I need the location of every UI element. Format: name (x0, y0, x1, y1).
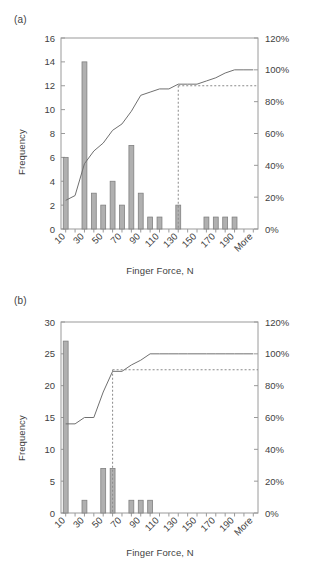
x-tick-label: 50 (89, 515, 104, 530)
y-tick-label: 10 (44, 444, 55, 455)
x-tick-label: 70 (108, 231, 123, 246)
y2-tick-label: 0% (265, 224, 279, 235)
bar (157, 217, 162, 229)
bar (120, 205, 125, 229)
y2-tick-label: 100% (265, 348, 290, 359)
x-tick-label: 130 (161, 515, 180, 534)
plot-frame (61, 38, 258, 229)
bar (82, 500, 87, 513)
bar (110, 181, 115, 229)
y-tick-label: 10 (44, 104, 55, 115)
y-tick-label: 25 (44, 348, 55, 359)
y2-tick-label: 120% (265, 33, 290, 44)
bar (63, 157, 68, 229)
y-tick-label: 14 (44, 56, 55, 67)
y-tick-label: 0 (50, 508, 55, 519)
y2-tick-label: 40% (265, 160, 285, 171)
bar (213, 217, 218, 229)
bar (129, 500, 134, 513)
y2-tick-label: 20% (265, 476, 285, 487)
x-tick-label: 70 (108, 515, 123, 530)
bar (176, 205, 181, 229)
bar (138, 500, 143, 513)
x-tick-label: 150 (179, 231, 198, 250)
bar (129, 145, 134, 229)
y2-tick-label: 100% (265, 64, 290, 75)
bar (91, 193, 96, 229)
x-tick-label: 170 (198, 231, 217, 250)
y-tick-label: 16 (44, 33, 55, 44)
y2-tick-label: 80% (265, 380, 285, 391)
bar (148, 217, 153, 229)
y-tick-label: 4 (50, 176, 55, 187)
y-tick-label: 2 (50, 200, 55, 211)
x-tick-label: More (232, 515, 255, 538)
x-tick-label: More (232, 231, 255, 254)
y-tick-label: 20 (44, 380, 55, 391)
x-tick-label: 150 (179, 515, 198, 534)
x-tick-label: 50 (89, 231, 104, 246)
y-tick-label: 15 (44, 412, 55, 423)
x-tick-label: 30 (71, 515, 86, 530)
y-tick-label: 0 (50, 224, 55, 235)
y-tick-label: 30 (44, 317, 55, 328)
y2-tick-label: 20% (265, 192, 285, 203)
x-tick-label: 30 (71, 231, 86, 246)
bar (223, 217, 228, 229)
bar (148, 500, 153, 513)
x-tick-label: 110 (142, 231, 160, 249)
panel-b: (b) Frequency Finger Force, N 0510152025… (0, 283, 327, 567)
y2-tick-label: 0% (265, 508, 279, 519)
y2-tick-label: 80% (265, 96, 285, 107)
y-tick-label: 5 (50, 476, 55, 487)
panel-b-plot: 0510152025300%20%40%60%80%100%120%103050… (0, 283, 327, 567)
bar (138, 193, 143, 229)
x-tick-label: 170 (198, 515, 217, 534)
x-tick-label: 90 (127, 515, 142, 530)
y2-tick-label: 60% (265, 128, 285, 139)
y-tick-label: 6 (50, 152, 55, 163)
x-tick-label: 130 (161, 231, 180, 250)
bar (63, 341, 68, 513)
y2-tick-label: 40% (265, 444, 285, 455)
bar (101, 205, 106, 229)
bar (82, 62, 87, 229)
panel-a-plot: 02468101214160%20%40%60%80%100%120%10305… (0, 0, 327, 283)
x-tick-label: 110 (142, 515, 160, 533)
y-tick-label: 12 (44, 80, 55, 91)
bar (232, 217, 237, 229)
y-tick-label: 8 (50, 128, 55, 139)
bar (204, 217, 209, 229)
x-tick-label: 90 (127, 231, 142, 246)
panel-a: (a) Frequency Finger Force, N 0246810121… (0, 0, 327, 283)
y2-tick-label: 60% (265, 412, 285, 423)
y2-tick-label: 120% (265, 317, 290, 328)
bar (101, 468, 106, 513)
